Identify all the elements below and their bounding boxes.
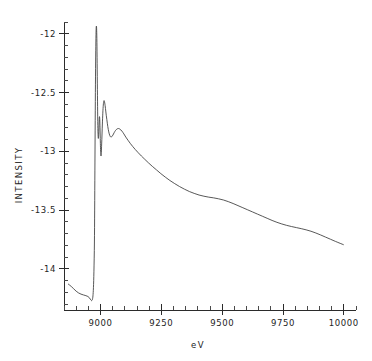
y-axis-group: -12-12.5-13-13.5-14 INTENSITY — [14, 22, 69, 310]
xafs-spectrum-plot: -12-12.5-13-13.5-14 INTENSITY 9000925095… — [0, 0, 372, 361]
absorption-curve — [68, 26, 343, 301]
chart-canvas: -12-12.5-13-13.5-14 INTENSITY 9000925095… — [0, 0, 372, 361]
x-tick-label: 9500 — [210, 318, 234, 328]
x-tick-label: 10000 — [329, 318, 359, 328]
data-series-group — [68, 26, 343, 301]
x-axis-group: 900092509500975010000 eV — [64, 304, 359, 350]
y-axis-tick-labels: -12-12.5-13-13.5-14 — [31, 29, 56, 274]
y-tick-label: -12.5 — [31, 88, 56, 98]
y-tick-label: -13.5 — [31, 205, 56, 215]
x-tick-label: 9750 — [271, 318, 295, 328]
x-axis-title: eV — [191, 340, 205, 350]
x-axis-tick-labels: 900092509500975010000 — [88, 318, 358, 328]
x-tick-label: 9000 — [88, 318, 112, 328]
x-tick-label: 9250 — [149, 318, 173, 328]
y-tick-label: -14 — [40, 264, 56, 274]
y-tick-label: -12 — [40, 29, 56, 39]
y-axis-title: INTENSITY — [14, 147, 24, 204]
y-tick-label: -13 — [40, 146, 56, 156]
